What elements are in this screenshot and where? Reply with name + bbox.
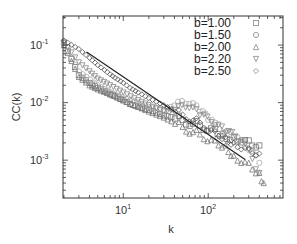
y-tick-label-1: 10-2: [30, 95, 49, 108]
x-tick-label-1: 102: [200, 203, 216, 216]
legend-label-4: b=2.50: [194, 64, 231, 78]
legend-marker-triangle-up-icon: [253, 44, 258, 49]
x-axis-title: k: [168, 223, 174, 235]
y-axis-title: CC(k): [10, 93, 22, 122]
legend-marker-square-icon: [253, 20, 258, 25]
chart-canvas: 10-1 10-2 10-3 101 102 k CC(k) b=1.00 b=…: [0, 0, 297, 244]
x-tick-label-0: 101: [115, 203, 131, 216]
legend: b=1.00 b=1.50 b=2.00 b=2.20 b=2.50: [194, 16, 259, 78]
plot-data: [61, 38, 266, 186]
legend-marker-triangle-down-icon: [253, 56, 258, 61]
legend-marker-circle-icon: [253, 32, 258, 37]
y-tick-label-0: 10-1: [30, 38, 49, 51]
y-tick-label-2: 10-3: [30, 153, 49, 166]
legend-marker-diamond-icon: [253, 68, 258, 73]
